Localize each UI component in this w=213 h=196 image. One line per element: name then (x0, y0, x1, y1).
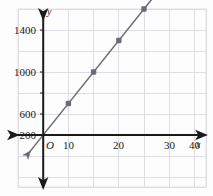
graph-figure: 1400 1000 600 200 10 20 30 40 O y x (0, 0, 213, 196)
x-tick-label-10: 10 (56, 140, 81, 151)
x-axis-label: x (196, 140, 200, 150)
y-tick-label-600: 600 (0, 109, 36, 120)
y-axis-label: y (47, 7, 51, 17)
x-tick-label-20: 20 (106, 140, 131, 151)
data-point (66, 101, 71, 106)
y-tick-label-200: 200 (0, 130, 36, 141)
grid-vertical (18, 9, 206, 187)
data-point (141, 6, 146, 11)
y-tick-label-1400: 1400 (0, 25, 36, 36)
origin-label: O (46, 140, 54, 151)
data-point (91, 69, 96, 74)
y-tick-label-1000: 1000 (0, 67, 36, 78)
grid-horizontal (18, 9, 206, 187)
x-tick-label-40: 40 (182, 140, 207, 151)
data-point (116, 38, 121, 43)
data-line (28, 0, 162, 154)
plot-frame (18, 9, 206, 187)
x-tick-label-30: 30 (157, 140, 182, 151)
